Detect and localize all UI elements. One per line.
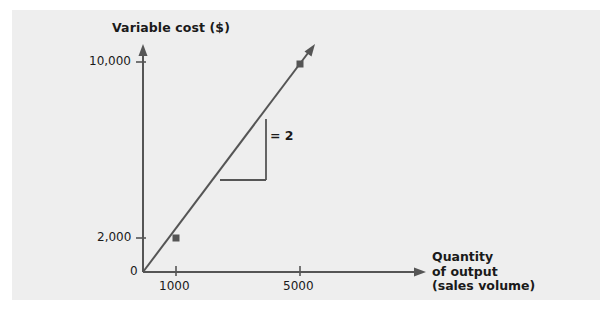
figure-root: Variable cost ($) Quantity of output (sa… <box>0 0 615 316</box>
y-axis-title: Variable cost ($) <box>112 22 230 35</box>
y-tick-label-2000: 2,000 <box>97 231 131 243</box>
x-axis-title: Quantity of output (sales volume) <box>432 250 535 294</box>
x-tick-label-1000: 1000 <box>159 280 190 292</box>
y-axis-arrow-icon <box>139 44 148 56</box>
x-axis-title-line-1: Quantity <box>432 250 535 265</box>
x-tick-label-5000: 5000 <box>283 280 314 292</box>
variable-cost-line <box>143 53 308 272</box>
y-tick-label-10000: 10,000 <box>89 55 131 67</box>
data-point-marker <box>297 61 304 68</box>
origin-label: 0 <box>130 265 138 277</box>
x-axis-arrow-icon <box>414 268 426 277</box>
slope-annotation-label: = 2 <box>270 130 294 143</box>
chart-area: Variable cost ($) Quantity of output (sa… <box>0 0 615 316</box>
x-axis-title-line-3: (sales volume) <box>432 279 535 294</box>
x-axis-title-line-2: of output <box>432 265 535 280</box>
data-point-marker <box>173 235 180 242</box>
